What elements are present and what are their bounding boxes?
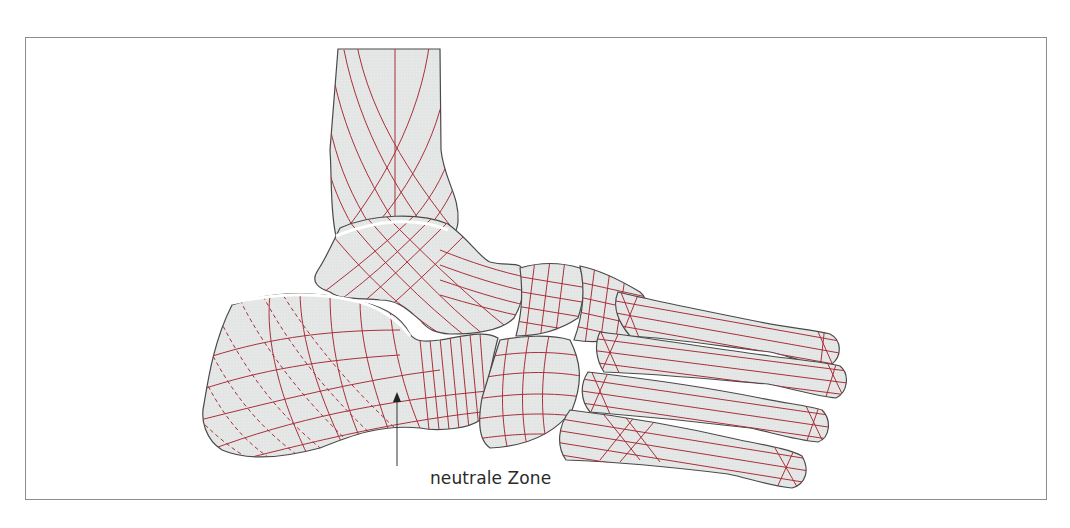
neutral-zone-label: neutrale Zone [430, 468, 551, 488]
foot-bone-trajectory-illustration [0, 0, 1070, 528]
